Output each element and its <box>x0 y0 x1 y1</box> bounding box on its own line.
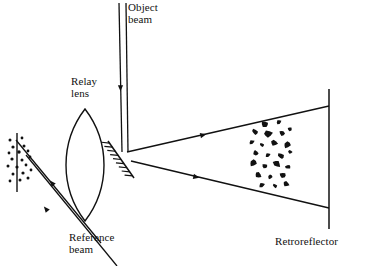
label-relay-lens: Relay lens <box>71 76 97 99</box>
particle <box>260 143 264 147</box>
speckle-dot <box>9 180 12 183</box>
particle <box>262 121 268 127</box>
particle <box>250 140 255 144</box>
mirror-hatch <box>116 163 124 164</box>
speckle-dot <box>19 179 22 182</box>
particle <box>259 183 264 187</box>
speckle-dot <box>8 152 11 155</box>
particle <box>264 131 273 138</box>
diverging-beam-upper-ray <box>127 106 329 152</box>
reference-beam-ray-0 <box>16 140 101 243</box>
particle <box>280 173 286 178</box>
speckle-dot <box>15 165 18 168</box>
particle <box>288 128 292 132</box>
particle <box>266 153 271 157</box>
diverging-beam-lower-ray <box>131 161 329 208</box>
particle <box>285 141 291 148</box>
particle <box>279 131 285 136</box>
particle <box>250 159 256 166</box>
particle <box>285 165 290 169</box>
mirror-hatch <box>104 146 112 147</box>
relay-lens <box>66 109 104 221</box>
label-reference-beam: Reference beam <box>69 232 114 255</box>
particle <box>256 172 262 177</box>
speckle-dot <box>27 150 30 153</box>
particle <box>273 184 277 188</box>
mirror-hatch <box>110 155 118 156</box>
speckle-dot <box>21 159 24 162</box>
particle <box>253 150 258 156</box>
speckle-dot <box>27 177 30 180</box>
object-beam-arrow-0 <box>118 85 123 91</box>
mirror-hatch <box>119 167 127 168</box>
particle <box>277 120 281 124</box>
mirror-hatch <box>125 175 133 176</box>
particle <box>252 129 258 135</box>
speckle-dot <box>23 145 26 148</box>
speckle-dot <box>11 145 14 148</box>
object-beam <box>118 3 128 152</box>
reference-beam-arrow-1 <box>44 206 50 212</box>
speckle-dot <box>7 165 10 168</box>
mirror-hatch <box>107 150 115 151</box>
particle-cloud <box>250 120 293 188</box>
speckle-dot <box>9 139 12 142</box>
speckle-dot <box>25 164 28 167</box>
relay-lens-outline <box>66 109 104 221</box>
particle <box>288 150 292 154</box>
particle <box>268 174 272 179</box>
optical-diagram: .stroke { stroke:#111111; fill:none; str… <box>0 0 371 266</box>
particle <box>284 181 290 186</box>
diagram-canvas: .stroke { stroke:#111111; fill:none; str… <box>0 0 371 266</box>
speckle-dot <box>10 157 13 160</box>
mirror-hatch <box>101 142 109 143</box>
mirror-hatch <box>122 171 130 172</box>
speckle-dot <box>30 169 33 172</box>
mirror-hatch <box>113 159 121 160</box>
particle <box>263 164 268 168</box>
particle <box>273 161 280 167</box>
particle <box>278 153 284 159</box>
label-object-beam: Object beam <box>128 2 158 25</box>
label-retroreflector: Retroreflector <box>275 236 338 248</box>
speckle-dot <box>21 137 24 140</box>
speckle-dot <box>21 171 24 174</box>
particle <box>271 140 278 146</box>
speckle-dot <box>17 150 20 153</box>
object-beam-ray-1 <box>126 3 128 152</box>
turning-mirror-icon <box>101 141 134 178</box>
object-beam-ray-0 <box>119 3 122 152</box>
speckle-dot <box>12 173 15 176</box>
diverging-object-beam <box>127 106 329 208</box>
